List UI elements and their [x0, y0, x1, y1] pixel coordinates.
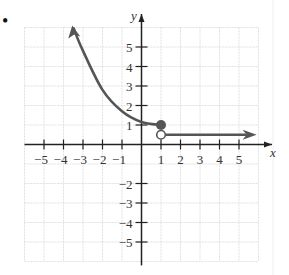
y-tick-label: −3 [119, 196, 133, 211]
y-tick-label: 5 [126, 40, 133, 55]
x-tick-label: −1 [112, 152, 126, 167]
x-axis-label: x [269, 145, 276, 160]
x-tick-label: 3 [197, 152, 204, 167]
closed-endpoint-dot [156, 120, 166, 130]
x-tick-label: 5 [236, 152, 243, 167]
y-tick-label: 2 [126, 99, 133, 114]
y-tick-label: 1 [126, 118, 133, 133]
function-plot [68, 26, 256, 140]
graph: −5−4−3−2−11234554321−2−3−4−5 • y x [0, 0, 289, 275]
x-tick-label: −5 [34, 152, 48, 167]
y-tick-label: 3 [126, 79, 133, 94]
y-tick-label: −2 [119, 177, 133, 192]
x-tick-label: −4 [54, 152, 68, 167]
x-tick-label: 2 [177, 152, 184, 167]
x-tick-label: −3 [73, 152, 87, 167]
axes [25, 14, 273, 265]
y-axis-arrow-icon [139, 14, 145, 22]
y-axis-label: y [129, 8, 137, 23]
x-tick-label: 4 [216, 152, 223, 167]
y-tick-label: 4 [126, 60, 133, 75]
y-tick-label: −4 [119, 216, 133, 231]
y-tick-label: −5 [119, 235, 133, 250]
x-tick-label: −2 [93, 152, 107, 167]
decreasing-curve [73, 28, 161, 126]
open-endpoint-circle [157, 130, 166, 139]
problem-bullet: • [2, 11, 8, 31]
x-tick-label: 1 [158, 152, 165, 167]
